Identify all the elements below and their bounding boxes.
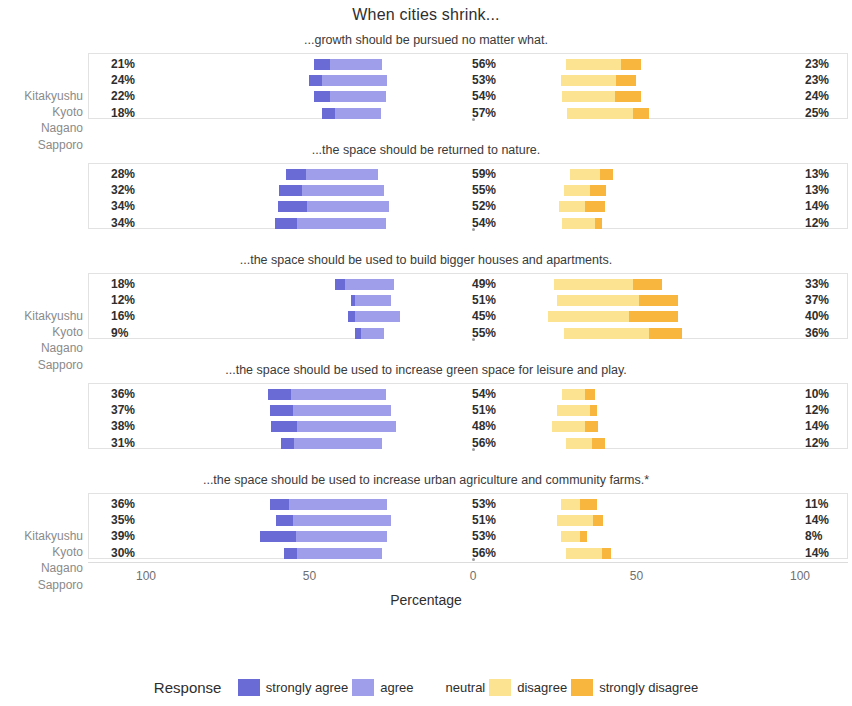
bar-segment-disagree	[561, 531, 581, 542]
bar-segment-agree	[361, 328, 384, 339]
bar-segment-agree	[322, 75, 387, 86]
row-agree-percent: 18%	[111, 277, 135, 293]
row-neutral-percent: 51%	[472, 403, 496, 419]
panel-title: ...growth should be pursued no matter wh…	[0, 33, 852, 47]
row-city-label: Nagano	[0, 121, 83, 137]
legend-title: Response	[154, 679, 222, 696]
panel: ...the space should be used to increase …	[0, 473, 852, 561]
bar-segment-strongly-disagree	[633, 279, 662, 290]
bar-segment-strongly-disagree	[585, 201, 605, 212]
bar-segment-agree	[289, 499, 387, 510]
center-tick-mark	[472, 228, 475, 231]
row-disagree-percent: 37%	[805, 293, 829, 309]
table-row: 36%53%11%	[89, 497, 847, 513]
row-neutral-percent: 51%	[472, 293, 496, 309]
row-neutral-percent: 51%	[472, 513, 496, 529]
row-agree-percent: 36%	[111, 387, 135, 403]
row-disagree-percent: 8%	[805, 529, 822, 545]
bar-segment-disagree	[554, 279, 632, 290]
bar-segment-disagree	[564, 328, 649, 339]
row-neutral-percent: 55%	[472, 326, 496, 342]
bar-segment-agree	[307, 201, 389, 212]
bar-segment-strongly-disagree	[590, 185, 606, 196]
bar-segment-strongly-disagree	[633, 108, 649, 119]
row-agree-percent: 12%	[111, 293, 135, 309]
bar-segment-disagree	[562, 91, 614, 102]
bar-segment-disagree	[566, 438, 592, 449]
table-row: 32%55%13%	[89, 183, 847, 199]
legend-label: strongly agree	[266, 680, 348, 695]
row-disagree-percent: 11%	[805, 497, 828, 513]
row-agree-percent: 18%	[111, 106, 135, 122]
bar-segment-strongly-disagree	[590, 405, 597, 416]
bar-segment-strongly-disagree	[639, 295, 678, 306]
row-neutral-percent: 48%	[472, 419, 496, 435]
bar-segment-strongly-disagree	[593, 515, 603, 526]
row-agree-percent: 30%	[111, 546, 135, 562]
panel-title: ...the space should be returned to natur…	[0, 143, 852, 157]
bar-segment-strongly-disagree	[616, 75, 636, 86]
bar-segment-strongly-agree	[284, 548, 297, 559]
row-agree-percent: 34%	[111, 199, 135, 215]
row-agree-percent: 24%	[111, 73, 135, 89]
bar-segment-strongly-agree	[286, 169, 306, 180]
bar-segment-agree	[297, 218, 385, 229]
bar-segment-strongly-disagree	[600, 169, 613, 180]
row-agree-percent: 36%	[111, 497, 135, 513]
row-neutral-percent: 56%	[472, 57, 496, 73]
row-neutral-percent: 53%	[472, 73, 496, 89]
row-neutral-percent: 59%	[472, 167, 496, 183]
table-row: 36%54%10%	[89, 387, 847, 403]
row-disagree-percent: 14%	[805, 513, 829, 529]
row-disagree-percent: 14%	[805, 419, 829, 435]
page-title: When cities shrink...	[0, 6, 852, 24]
row-disagree-percent: 33%	[805, 277, 829, 293]
bar-segment-strongly-disagree	[585, 421, 598, 432]
row-agree-percent: 35%	[111, 513, 135, 529]
center-tick-mark	[472, 558, 475, 561]
bar-segment-agree	[306, 169, 378, 180]
bar-segment-strongly-agree	[276, 515, 292, 526]
row-neutral-percent: 56%	[472, 436, 496, 452]
bar-segment-strongly-disagree	[649, 328, 682, 339]
bar-segment-disagree	[561, 499, 581, 510]
row-agree-percent: 32%	[111, 183, 135, 199]
row-disagree-percent: 12%	[805, 216, 829, 232]
bar-segment-strongly-agree	[314, 91, 330, 102]
row-city-label: Kyoto	[0, 105, 83, 121]
row-neutral-percent: 55%	[472, 183, 496, 199]
legend-label: disagree	[517, 680, 567, 695]
row-disagree-percent: 24%	[805, 89, 829, 105]
row-neutral-percent: 53%	[472, 497, 496, 513]
table-row: 30%56%14%	[89, 546, 847, 562]
bar-segment-strongly-agree	[314, 59, 330, 70]
bar-segment-agree	[330, 91, 386, 102]
row-city-label: Nagano	[0, 341, 83, 357]
table-row: 18%57%25%	[89, 106, 847, 122]
table-row: 9%55%36%	[89, 326, 847, 342]
table-row: 12%51%37%	[89, 293, 847, 309]
bar-segment-strongly-disagree	[602, 548, 612, 559]
row-neutral-percent: 54%	[472, 89, 496, 105]
bar-segment-agree	[345, 279, 394, 290]
bar-segment-agree	[293, 405, 391, 416]
bar-segment-strongly-agree	[260, 531, 296, 542]
x-axis-line	[88, 562, 848, 563]
row-neutral-percent: 53%	[472, 529, 496, 545]
bar-segment-strongly-disagree	[592, 438, 605, 449]
table-row: 18%49%33%	[89, 277, 847, 293]
panel-plot-area: 28%59%13%32%55%13%34%52%14%34%54%12%	[88, 163, 848, 229]
row-disagree-percent: 14%	[805, 546, 829, 562]
legend-label: strongly disagree	[599, 680, 698, 695]
bar-segment-strongly-agree	[322, 108, 335, 119]
bar-segment-strongly-disagree	[580, 499, 596, 510]
bar-segment-strongly-agree	[275, 218, 298, 229]
bar-segment-strongly-agree	[335, 279, 345, 290]
table-row: 37%51%12%	[89, 403, 847, 419]
table-row: 35%51%14%	[89, 513, 847, 529]
bar-segment-disagree	[559, 201, 585, 212]
bar-segment-agree	[297, 548, 382, 559]
bar-segment-agree	[297, 421, 395, 432]
legend-swatch-strongly-agree	[238, 679, 260, 696]
bar-segment-strongly-agree	[270, 499, 290, 510]
